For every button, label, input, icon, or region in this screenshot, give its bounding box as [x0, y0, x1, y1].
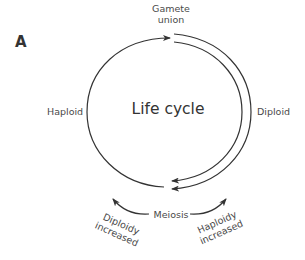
life-cycle-title: Life cycle	[125, 100, 211, 118]
diploidy-increased-arrow	[113, 199, 149, 214]
gamete-union-line-1: Gamete	[145, 3, 197, 14]
life-cycle-diagram	[0, 0, 305, 260]
haploidy-increased-arrow	[190, 199, 226, 214]
panel-letter: A	[15, 33, 27, 51]
gamete-union-line-2: union	[145, 14, 197, 25]
meiosis-label: Meiosis	[150, 209, 192, 220]
diploid-label: Diploid	[257, 106, 290, 117]
gamete-union-label: Gamete union	[145, 3, 197, 25]
haploid-label: Haploid	[47, 106, 83, 117]
